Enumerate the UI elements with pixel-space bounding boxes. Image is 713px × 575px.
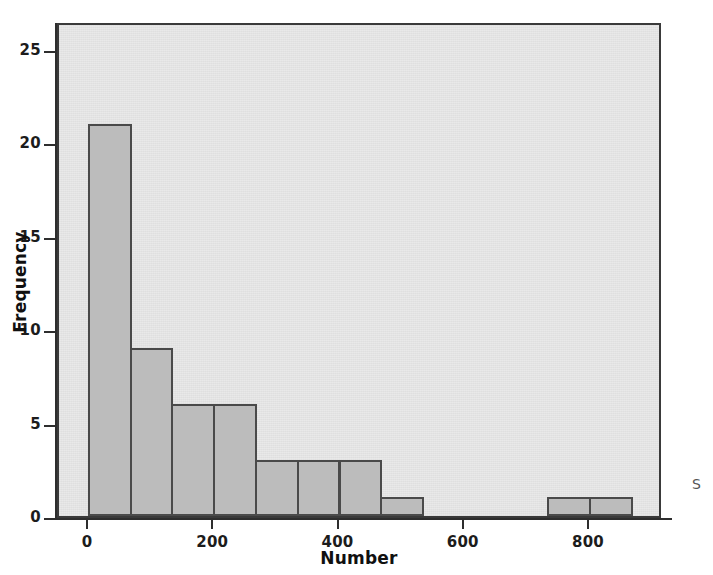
y-axis-tick-mark (44, 238, 55, 240)
x-axis-title: Number (57, 548, 661, 568)
y-axis-tick: 20 (0, 144, 55, 146)
y-axis-tick: 5 (0, 425, 55, 427)
histogram-figure: 0510152025 0200400600800 Frequency Numbe… (0, 0, 713, 575)
histogram-bar (130, 348, 174, 516)
plot-area (57, 23, 661, 518)
y-axis-tick-mark (44, 144, 55, 146)
y-axis-tick-label: 25 (20, 41, 41, 59)
y-axis-tick-mark (44, 331, 55, 333)
y-axis-tick: 0 (0, 518, 55, 520)
histogram-bar (547, 497, 591, 516)
x-axis-line (44, 518, 672, 520)
histogram-bar (213, 404, 257, 516)
stats-annotation-cropped: S (692, 476, 701, 492)
y-axis-tick-label: 20 (20, 134, 41, 152)
x-axis-tick-mark (86, 518, 88, 529)
x-axis-tick-mark (211, 518, 213, 529)
x-axis-tick-mark (462, 518, 464, 529)
histogram-bar (380, 497, 424, 516)
y-axis-tick-mark (44, 425, 55, 427)
histogram-bar (255, 460, 299, 516)
histogram-bar (589, 497, 633, 516)
histogram-bar (297, 460, 341, 516)
y-axis-tick: 25 (0, 51, 55, 53)
histogram-bar (171, 404, 215, 516)
y-axis-tick-label: 5 (30, 415, 41, 433)
histogram-bar (339, 460, 383, 516)
y-axis-line (55, 23, 57, 520)
x-axis-tick-mark (587, 518, 589, 529)
y-axis-title: Frequency (10, 222, 30, 342)
histogram-bar (88, 124, 132, 516)
y-axis-tick-mark (44, 518, 55, 520)
y-axis-tick-label: 0 (30, 508, 41, 526)
x-axis-tick-mark (337, 518, 339, 529)
y-axis-tick-mark (44, 51, 55, 53)
